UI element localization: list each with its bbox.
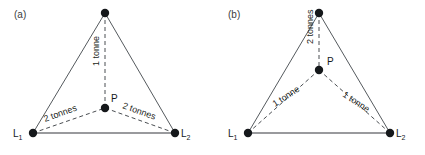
vertex-label-l2-sub: 2 [187,134,191,141]
node-p [315,66,323,74]
measure-label-right: 2 tonnes [121,100,157,121]
vertex-label-l2: L2 [396,128,406,141]
node-p [101,104,109,112]
triangle-edge-right [319,13,390,133]
panel-label-b: (b) [228,9,240,20]
node-apex [315,9,323,17]
figure-container: (a) L1 L2 P 1 tonne 2 tonnes 2 tonnes [0,0,425,155]
node-l1 [29,129,37,137]
vertex-label-l1: L1 [13,128,23,141]
vertex-label-l1-sub: 1 [19,134,23,141]
point-label-p: P [327,56,334,67]
panel-label-a: (a) [14,9,26,20]
node-l2 [386,129,394,137]
vertex-label-l2: L2 [181,128,191,141]
measure-label-right: 1 tonne [341,89,372,114]
node-l2 [171,129,179,137]
node-l1 [244,129,252,137]
measure-label-left: 2 tonnes [42,103,78,124]
vertex-label-l1-sub: 1 [234,134,238,141]
measure-label-vertical: 2 tonnes [305,9,315,44]
vertex-label-l2-sub: 2 [402,134,406,141]
figure-svg: (a) L1 L2 P 1 tonne 2 tonnes 2 tonnes [0,0,425,155]
vertex-label-l1: L1 [228,128,238,141]
measure-label-vertical: 1 tonne [91,36,101,66]
panel-b: (b) L1 L2 P 2 tonnes 1 tonne 1 tonne [228,9,406,141]
panel-a: (a) L1 L2 P 1 tonne 2 tonnes 2 tonnes [13,9,191,141]
point-label-p: P [111,93,118,104]
node-apex [101,9,109,17]
